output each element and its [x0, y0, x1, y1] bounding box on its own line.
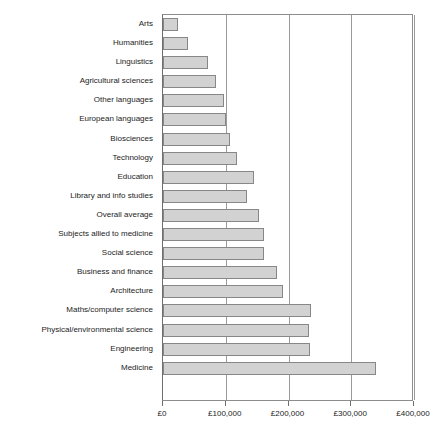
bar-row	[163, 34, 412, 53]
bar-chart: ArtsHumanitiesLinguisticsAgricultural sc…	[0, 0, 439, 447]
category-label: Engineering	[0, 339, 158, 358]
bar-row	[163, 168, 412, 187]
bar-row	[163, 187, 412, 206]
x-axis-tick-labels: £0£100,000£200,000£300,000£400,000	[0, 409, 439, 425]
bar	[163, 171, 254, 184]
category-label: Linguistics	[0, 52, 158, 71]
x-tick-label: £200,000	[271, 409, 304, 418]
category-label: Biosciences	[0, 129, 158, 148]
bar-row	[163, 15, 412, 34]
category-label: Physical/environmental science	[0, 320, 158, 339]
x-tick-label: £0	[158, 409, 167, 418]
bar-row	[163, 149, 412, 168]
bar-row	[163, 263, 412, 282]
bar	[163, 324, 309, 337]
bar-row	[163, 130, 412, 149]
bar-row	[163, 282, 412, 301]
category-label: Education	[0, 167, 158, 186]
bar-row	[163, 359, 412, 378]
bar	[163, 362, 376, 375]
category-label: Business and finance	[0, 262, 158, 281]
category-label: Social science	[0, 243, 158, 262]
category-label: European languages	[0, 109, 158, 128]
bar	[163, 247, 264, 260]
bar-row	[163, 110, 412, 129]
bar-row	[163, 225, 412, 244]
category-label: Arts	[0, 14, 158, 33]
bar-row	[163, 340, 412, 359]
category-label: Overall average	[0, 205, 158, 224]
category-label: Technology	[0, 148, 158, 167]
bar	[163, 209, 259, 222]
x-tick	[225, 401, 226, 406]
bar	[163, 285, 283, 298]
bar-row	[163, 301, 412, 320]
category-label: Other languages	[0, 90, 158, 109]
bar	[163, 228, 264, 241]
x-tick	[413, 401, 414, 406]
bar	[163, 190, 247, 203]
gridline	[414, 15, 415, 400]
bar-row	[163, 321, 412, 340]
bar	[163, 113, 226, 126]
x-tick-label: £400,000	[396, 409, 429, 418]
x-tick	[350, 401, 351, 406]
category-label: Humanities	[0, 33, 158, 52]
bar-row	[163, 53, 412, 72]
bar	[163, 18, 178, 31]
x-tick	[288, 401, 289, 406]
bar-row	[163, 244, 412, 263]
category-label: Architecture	[0, 281, 158, 300]
bar	[163, 266, 277, 279]
bar	[163, 94, 224, 107]
bar	[163, 343, 310, 356]
category-label: Subjects allied to medicine	[0, 224, 158, 243]
category-label: Medicine	[0, 358, 158, 377]
category-label: Library and info studies	[0, 186, 158, 205]
bar	[163, 56, 208, 69]
bar	[163, 304, 311, 317]
x-tick-label: £300,000	[334, 409, 367, 418]
bar	[163, 152, 237, 165]
x-axis-ticks	[162, 401, 413, 407]
category-label: Agricultural sciences	[0, 71, 158, 90]
x-tick	[162, 401, 163, 406]
bar-series	[163, 15, 412, 400]
bar	[163, 37, 188, 50]
bar-row	[163, 91, 412, 110]
bar-row	[163, 206, 412, 225]
plot-area	[162, 14, 413, 401]
bar-row	[163, 72, 412, 91]
category-label: Maths/computer science	[0, 300, 158, 319]
category-axis-labels: ArtsHumanitiesLinguisticsAgricultural sc…	[0, 14, 158, 377]
bar	[163, 133, 230, 146]
x-tick-label: £100,000	[208, 409, 241, 418]
bar	[163, 75, 216, 88]
